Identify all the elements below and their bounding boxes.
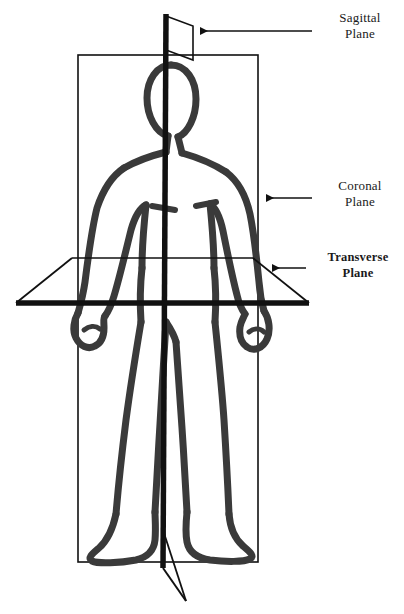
hip-left [140, 268, 142, 322]
chest-mark-right [196, 202, 216, 206]
transverse-plane-label: Transverse Plane [312, 249, 404, 281]
left-leg-outer [116, 322, 141, 514]
hip-right [214, 268, 216, 322]
right-hand-fingers [249, 329, 264, 332]
anatomical-planes-svg [0, 0, 404, 614]
left-foot [90, 512, 155, 563]
diagram-canvas: Sagittal Plane Coronal Plane Transverse … [0, 0, 404, 614]
human-body-outline [74, 65, 269, 563]
coronal-plane-label: Coronal Plane [318, 178, 402, 210]
head-outline-right [171, 65, 196, 137]
shoulder-right [182, 153, 226, 172]
left-hand-fingers [84, 326, 100, 330]
sagittal-plane-label: Sagittal Plane [318, 10, 402, 42]
right-leg-outer [215, 322, 229, 514]
shoulder-left [124, 152, 166, 168]
right-leg-inner [176, 342, 187, 512]
right-foot [186, 512, 252, 561]
